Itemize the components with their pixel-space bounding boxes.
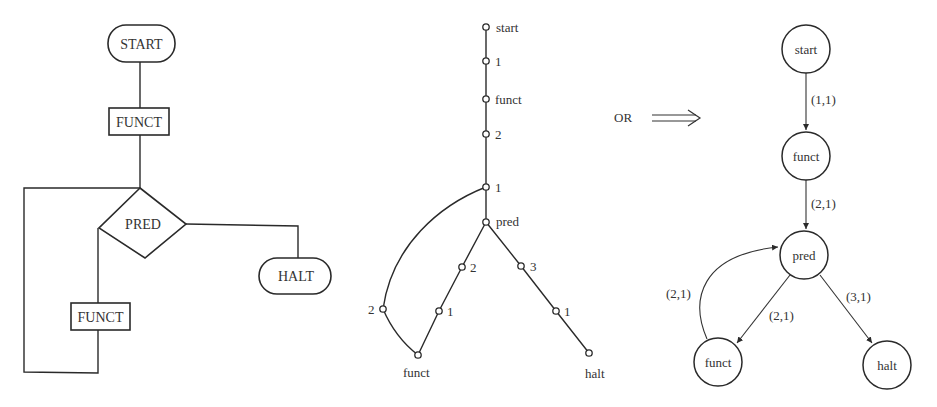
flow-pred-diamond: PRED	[99, 188, 186, 258]
state-node-start-label: start	[795, 42, 818, 57]
tree-label-funct-bottom: funct	[403, 365, 430, 380]
tree-node-2a	[483, 131, 489, 137]
tree-label-left-1: 1	[447, 304, 454, 319]
tree-label-1b: 1	[495, 180, 502, 195]
tree-label-halt: halt	[585, 366, 605, 381]
state-node-funct-top: funct	[782, 132, 830, 180]
tree-left-branch	[418, 222, 486, 355]
tree-node-right-3	[518, 263, 524, 269]
tree-node-left-1	[436, 308, 442, 314]
tree-graph: start 1 funct 2 1 pred 2 1 funct 3 1 hal…	[368, 20, 605, 381]
tree-node-start	[483, 24, 489, 30]
tree-label-start: start	[496, 20, 519, 35]
tree-label-curve-2: 2	[368, 302, 375, 317]
flow-funct-bottom-box: FUNCT	[71, 303, 130, 330]
state-graph: start funct pred funct halt (1,1) (2,1) …	[666, 25, 911, 389]
tree-label-right-1: 1	[564, 304, 571, 319]
flow-line-pred-halt	[186, 224, 298, 258]
tree-node-1a	[483, 58, 489, 64]
tree-label-right-3: 3	[530, 259, 537, 274]
edge-label-pred-funct: (2,1)	[769, 308, 794, 323]
tree-label-funct: funct	[495, 92, 522, 107]
flow-start-label: START	[120, 37, 163, 52]
flow-funct-bottom-label: FUNCT	[78, 310, 124, 325]
edge-label-funct-pred-loop: (2,1)	[666, 286, 691, 301]
or-connector: OR	[614, 110, 700, 126]
tree-label-2a: 2	[495, 127, 502, 142]
tree-node-funct	[483, 96, 489, 102]
flow-start-terminal: START	[108, 25, 175, 62]
tree-node-curve-2	[380, 306, 386, 312]
tree-label-left-2: 2	[470, 260, 477, 275]
tree-node-pred	[483, 219, 489, 225]
tree-loop-curve-upper	[383, 187, 486, 309]
tree-node-1b	[483, 184, 489, 190]
tree-node-halt	[586, 350, 592, 356]
tree-label-1a: 1	[495, 54, 502, 69]
state-node-funct-bottom: funct	[694, 338, 742, 386]
tree-label-pred: pred	[496, 214, 520, 229]
tree-node-right-1	[553, 308, 559, 314]
tree-node-funct-bottom	[415, 352, 421, 358]
state-node-funct-bottom-label: funct	[705, 355, 732, 370]
edge-label-pred-halt: (3,1)	[846, 289, 871, 304]
edge-label-funct-pred: (2,1)	[811, 196, 836, 211]
state-node-funct-top-label: funct	[793, 149, 820, 164]
flow-halt-label: HALT	[278, 269, 314, 284]
flowchart: START FUNCT PRED HALT FUNCT	[24, 25, 331, 373]
edge-funct-pred-loop	[700, 247, 778, 339]
flow-pred-label: PRED	[125, 217, 161, 232]
flow-funct-top-label: FUNCT	[116, 115, 162, 130]
tree-right-branch	[486, 222, 589, 353]
flow-funct-top-box: FUNCT	[109, 108, 169, 135]
state-node-pred: pred	[780, 231, 828, 279]
state-node-halt: halt	[863, 341, 911, 389]
tree-node-left-2	[459, 264, 465, 270]
edge-pred-halt	[820, 275, 872, 343]
flow-halt-terminal: HALT	[259, 258, 331, 294]
double-arrow-icon	[652, 110, 700, 126]
state-node-halt-label: halt	[877, 358, 897, 373]
or-label: OR	[614, 110, 632, 125]
edge-label-start-funct: (1,1)	[811, 92, 836, 107]
state-node-start: start	[782, 25, 830, 73]
state-node-pred-label: pred	[792, 248, 816, 263]
tree-loop-curve-lower	[383, 309, 418, 355]
